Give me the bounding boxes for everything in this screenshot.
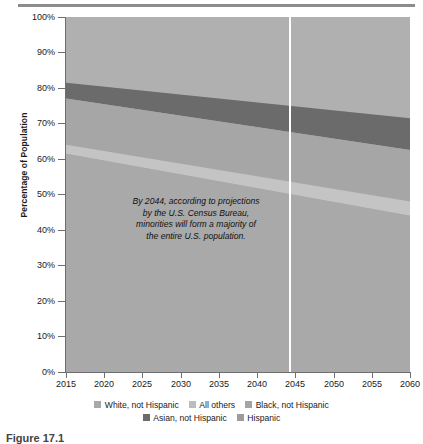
y-tick-label-70: 70% [9,118,55,128]
x-tick-label-2040: 2040 [237,379,277,389]
legend-row-2: Asian, not Hispanic Hispanic [0,411,423,424]
chart-annotation: By 2044, according to projections by the… [104,196,288,242]
legend-swatch-icon [189,401,196,408]
x-axis-line [65,372,411,373]
legend-label: All others [199,400,235,410]
legend-item-asian-not-hispanic[interactable]: Asian, not Hispanic [143,413,227,423]
y-tick-label-30: 30% [9,260,55,270]
stacked-area-plot [66,17,410,372]
annotation-line-2: by the U.S. Census Bureau, [104,208,288,220]
annotation-line-1: By 2044, according to projections [104,196,288,208]
x-tick-label-2035: 2035 [199,379,239,389]
y-tick-label-0: 0% [9,367,55,377]
y-tick-label-80: 80% [9,83,55,93]
y-tick-label-20: 20% [9,296,55,306]
chart-legend: White, not Hispanic All others Black, no… [0,398,423,424]
x-tick-label-2030: 2030 [161,379,201,389]
annotation-line-3: minorities will form a majority of [104,219,288,231]
legend-swatch-icon [94,401,101,408]
x-tick-label-2060: 2060 [390,379,423,389]
legend-swatch-icon [143,414,150,421]
y-tick-label-100: 100% [9,12,55,22]
y-tick-label-10: 10% [9,331,55,341]
y-tick-label-90: 90% [9,47,55,57]
legend-label: White, not Hispanic [105,400,179,410]
area-chart-svg [66,17,410,372]
x-tick-label-2020: 2020 [84,379,124,389]
x-tick-label-2050: 2050 [314,379,354,389]
legend-item-all-others[interactable]: All others [189,400,235,410]
legend-item-black-not-hispanic[interactable]: Black, not Hispanic [245,400,329,410]
x-tick-label-2045: 2045 [275,379,315,389]
legend-swatch-icon [237,414,244,421]
legend-swatch-icon [245,401,252,408]
legend-label: Hispanic [247,413,280,423]
x-tick-label-2025: 2025 [122,379,162,389]
annotation-line-4: the entire U.S. population. [104,231,288,243]
top-rule-divider [18,4,415,7]
y-tick-label-50: 50% [9,189,55,199]
y-tick-label-60: 60% [9,154,55,164]
y-tick-label-40: 40% [9,225,55,235]
y-axis-line [65,17,66,373]
legend-item-hispanic[interactable]: Hispanic [237,413,280,423]
figure-caption: Figure 17.1 [6,432,64,444]
x-tick-label-2015: 2015 [46,379,86,389]
y-axis-title: Percentage of Population [19,85,29,245]
legend-label: Asian, not Hispanic [153,413,227,423]
legend-row-1: White, not Hispanic All others Black, no… [0,398,423,411]
legend-label: Black, not Hispanic [256,400,329,410]
x-tick-label-2055: 2055 [352,379,392,389]
legend-item-white-not-hispanic[interactable]: White, not Hispanic [94,400,179,410]
